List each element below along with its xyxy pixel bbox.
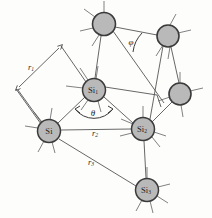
stub-si-down <box>52 142 55 153</box>
distance-label-r2-sub: 2 <box>95 132 98 138</box>
atom-label-si1-sub: 1 <box>95 89 98 95</box>
angle-label-theta: θ <box>91 108 96 118</box>
atom-label-si-base: Si <box>45 126 53 136</box>
angle-label-phi: φ <box>129 37 134 47</box>
stub-si3-downleft <box>136 200 142 211</box>
stub-si2-downright <box>152 137 160 147</box>
stub-si3-right <box>158 184 170 187</box>
bond-si2-right <box>152 102 172 122</box>
r1-dimension-arrow <box>19 48 59 87</box>
r1-extension-upper <box>61 46 86 82</box>
bond-topright-si2 <box>150 46 163 119</box>
stub-si1-upleft <box>80 68 88 80</box>
bond-si1-si2 <box>104 97 133 123</box>
atom-label-si3-sub: 3 <box>148 189 151 195</box>
stub-si-left <box>25 126 38 128</box>
distance-label-r3: r3 <box>88 157 94 167</box>
atom-si-top-left <box>93 13 116 36</box>
atom-si-top-right <box>157 25 179 47</box>
stub-topleft-upleft <box>84 9 95 17</box>
silicon-network-figure: Si1 Si Si2 Si3 r1 r2 r3 <box>0 0 212 218</box>
r1-extension-lower <box>16 89 41 124</box>
atom-label-si2-sub: 2 <box>144 128 147 134</box>
stub-right-down <box>181 105 183 117</box>
diagram-canvas: Si1 Si Si2 Si3 r1 r2 r3 <box>0 0 212 218</box>
stub-si-up <box>50 108 52 120</box>
bond-topright-right <box>171 47 179 83</box>
bond-si2-si3 <box>144 141 146 178</box>
stub-right-right <box>190 88 203 91</box>
bond-si1-si <box>58 97 85 123</box>
phi-arc <box>133 33 142 52</box>
distance-label-r1-sub: 1 <box>31 66 34 72</box>
angle-labels: θ φ <box>91 37 134 118</box>
stub-si1-downleft <box>81 100 88 110</box>
r1-frame-bottom <box>18 90 44 126</box>
bond-topleft-si1 <box>95 36 101 78</box>
stub-topleft-downleft <box>92 35 99 46</box>
stub-si1-left <box>66 86 83 88</box>
bond-topleft-topright <box>115 27 157 35</box>
stub-si3-down <box>150 201 153 213</box>
stub-si2-left <box>120 133 132 136</box>
stub-si-downleft <box>38 141 44 152</box>
bond-network <box>58 27 179 186</box>
stub-si2-right <box>154 132 166 136</box>
bond-si-si2 <box>61 129 131 130</box>
stub-topleft-left <box>80 28 93 31</box>
stub-topright-up <box>170 14 176 25</box>
bond-si-si3 <box>59 139 136 186</box>
atom-si-right <box>169 83 191 105</box>
stub-si1-down <box>98 101 101 112</box>
stub-topright-right <box>178 30 191 33</box>
distance-label-r1: r1 <box>28 62 34 72</box>
bond-si1-right-horizontal <box>105 87 157 95</box>
atom-label-si: Si <box>45 126 53 136</box>
stub-topright-down <box>168 47 170 59</box>
stub-si3-downright <box>157 196 168 203</box>
distance-label-r3-sub: 3 <box>90 161 94 167</box>
